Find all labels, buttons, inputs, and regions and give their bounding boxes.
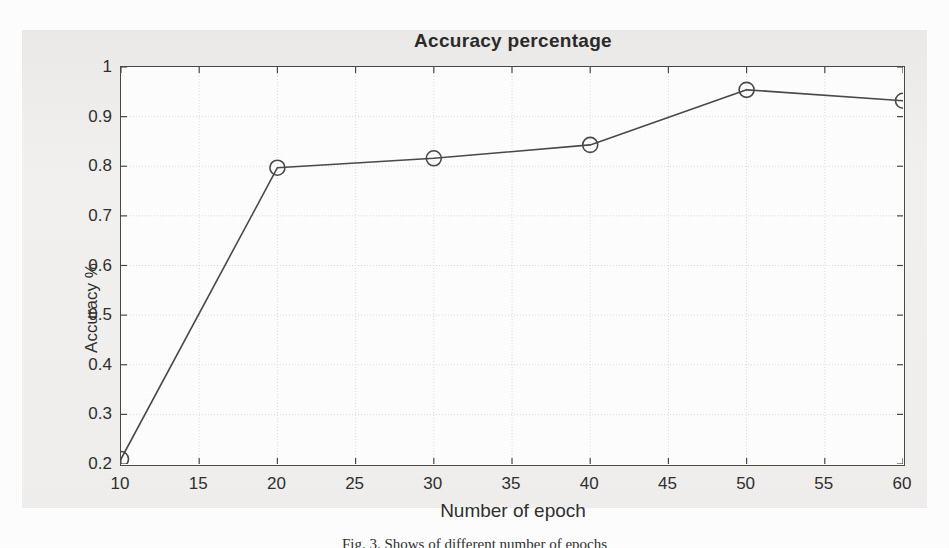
x-tick-label: 55 bbox=[794, 475, 854, 492]
x-tick-label: 60 bbox=[872, 475, 932, 492]
chart-title: Accuracy percentage bbox=[120, 30, 906, 52]
x-tick-label: 30 bbox=[403, 475, 463, 492]
y-axis-title-wrapper: Accuracy % bbox=[56, 66, 76, 466]
y-axis-title: Accuracy % bbox=[82, 238, 102, 378]
figure-caption: Fig. 3. Shows of different number of epo… bbox=[0, 536, 949, 548]
figure-region: Accuracy percentage 0.20.30.40.50.60.70.… bbox=[0, 0, 949, 548]
x-tick-label: 25 bbox=[325, 475, 385, 492]
x-tick-label: 20 bbox=[246, 475, 306, 492]
x-axis-title: Number of epoch bbox=[120, 500, 906, 522]
x-tick-label: 35 bbox=[481, 475, 541, 492]
gridlines-group bbox=[121, 67, 903, 464]
x-tick-label: 45 bbox=[637, 475, 697, 492]
x-tick-label: 10 bbox=[90, 475, 150, 492]
x-tick-label: 50 bbox=[716, 475, 776, 492]
x-tick-label: 15 bbox=[168, 475, 228, 492]
plot-area bbox=[120, 66, 905, 466]
chart-plot-svg bbox=[121, 67, 903, 464]
x-tick-label: 40 bbox=[559, 475, 619, 492]
